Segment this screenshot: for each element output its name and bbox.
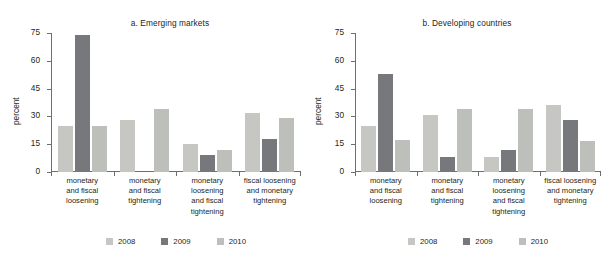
panel-a-group-1 xyxy=(114,33,177,172)
legend-label-2009: 2009 xyxy=(173,237,190,246)
panel-a-bar-1-2010 xyxy=(154,109,169,172)
panel-a-bar-2-2009 xyxy=(200,155,215,172)
figure-two-panel-bar-charts: a. Emerging markets percent 75 60 45 30 … xyxy=(0,0,609,264)
panel-b-bar-2-2010 xyxy=(518,109,533,172)
panel-b-legend: 200820092010 xyxy=(355,234,601,248)
panel-a-bar-slot-3-2008 xyxy=(244,33,261,172)
panel-a-bar-slot-3-2010 xyxy=(278,33,295,172)
legend-item-2009[interactable]: 2009 xyxy=(161,237,190,246)
panel-a-bar-0-2009 xyxy=(75,35,90,172)
panel-a-bar-3-2008 xyxy=(245,113,260,172)
panel-b-bar-slot-0-2010 xyxy=(394,33,411,172)
panel-b-bar-slot-2-2009 xyxy=(500,33,517,172)
panel-a-category-labels: monetaryand fiscalloosening monetaryand … xyxy=(51,176,301,236)
panel-a-bar-3-2009 xyxy=(262,139,277,172)
legend-swatch-2010-icon xyxy=(217,238,224,245)
panel-b-plot-area: 75 60 45 30 15 0 xyxy=(355,33,601,172)
panel-a-category-2: monetarylooseningand fiscaltightening xyxy=(176,176,239,236)
panel-b-bar-slot-2-2010 xyxy=(517,33,534,172)
panel-b-bar-groups xyxy=(355,33,601,172)
panel-b-title: b. Developing countries xyxy=(300,18,604,28)
panel-b-bar-3-2009 xyxy=(563,120,578,172)
legend-swatch-2009-icon xyxy=(463,238,470,245)
panel-b-bar-slot-0-2009 xyxy=(377,33,394,172)
panel-a-bar-groups xyxy=(51,33,301,172)
panel-b-bar-slot-3-2009 xyxy=(562,33,579,172)
panel-a-bar-slot-2-2010 xyxy=(216,33,233,172)
panel-b-bar-0-2008 xyxy=(361,126,376,172)
panel-b-bar-2-2008 xyxy=(484,157,499,172)
legend-label-2010: 2010 xyxy=(229,237,246,246)
panel-b-bar-0-2010 xyxy=(395,140,410,172)
panel-a-bar-slot-0-2009 xyxy=(74,33,91,172)
panel-a-group-0 xyxy=(51,33,114,172)
panel-b-bar-1-2008 xyxy=(423,115,438,172)
panel-a-bar-0-2010 xyxy=(92,126,107,172)
legend-label-2010: 2010 xyxy=(531,237,548,246)
panel-b-bar-2-2009 xyxy=(501,150,516,172)
panel-b-bar-slot-1-2008 xyxy=(422,33,439,172)
panel-b-bar-slot-3-2008 xyxy=(545,33,562,172)
legend-swatch-2008-icon xyxy=(106,238,113,245)
panel-b-group-2 xyxy=(478,33,540,172)
panel-b-bar-slot-1-2010 xyxy=(456,33,473,172)
panel-a-plot-area: 75 60 45 30 15 0 xyxy=(51,33,301,172)
panel-a-group-2 xyxy=(176,33,239,172)
panel-a-bar-slot-1-2010 xyxy=(153,33,170,172)
legend-item-2010[interactable]: 2010 xyxy=(519,237,548,246)
panel-a-legend: 200820092010 xyxy=(51,234,301,248)
panel-a-group-3 xyxy=(239,33,302,172)
panel-a-bar-2-2010 xyxy=(217,150,232,172)
panel-b-bar-slot-0-2008 xyxy=(360,33,377,172)
panel-a-category-3: fiscal looseningand monetarytightening xyxy=(239,176,302,236)
panel-b-category-labels: monetaryand fiscalloosening monetaryand … xyxy=(355,176,601,236)
legend-item-2009[interactable]: 2009 xyxy=(463,237,492,246)
panel-b-group-1 xyxy=(417,33,479,172)
panel-a-category-0: monetaryand fiscalloosening xyxy=(51,176,114,236)
panel-b-group-0 xyxy=(355,33,417,172)
legend-swatch-2009-icon xyxy=(161,238,168,245)
panel-b-bar-1-2009 xyxy=(440,157,455,172)
panel-a-bar-slot-0-2008 xyxy=(57,33,74,172)
legend-item-2008[interactable]: 2008 xyxy=(106,237,135,246)
panel-developing-countries: b. Developing countries percent 75 60 45… xyxy=(300,0,604,264)
legend-label-2008: 2008 xyxy=(420,237,437,246)
legend-item-2010[interactable]: 2010 xyxy=(217,237,246,246)
panel-a-bar-slot-2-2009 xyxy=(199,33,216,172)
panel-b-category-0: monetaryand fiscalloosening xyxy=(355,176,417,236)
panel-a-bar-3-2010 xyxy=(279,118,294,172)
panel-b-category-1: monetaryand fiscaltightening xyxy=(417,176,479,236)
panel-b-bar-1-2010 xyxy=(457,109,472,172)
panel-a-bar-slot-3-2009 xyxy=(261,33,278,172)
panel-a-bar-1-2008 xyxy=(120,120,135,172)
panel-a-bar-slot-1-2009 xyxy=(136,33,153,172)
panel-b-bar-slot-2-2008 xyxy=(483,33,500,172)
legend-label-2009: 2009 xyxy=(475,237,492,246)
legend-swatch-2010-icon xyxy=(519,238,526,245)
panel-a-bar-slot-1-2008 xyxy=(119,33,136,172)
panel-a-category-1: monetaryand fiscaltightening xyxy=(114,176,177,236)
panel-b-group-3 xyxy=(540,33,602,172)
panel-b-bar-3-2010 xyxy=(580,141,595,172)
panel-b-bar-slot-3-2010 xyxy=(579,33,596,172)
panel-a-y-axis-label: percent xyxy=(11,97,21,125)
legend-label-2008: 2008 xyxy=(118,237,135,246)
legend-item-2008[interactable]: 2008 xyxy=(408,237,437,246)
panel-a-bar-2-2008 xyxy=(183,144,198,172)
panel-a-title: a. Emerging markets xyxy=(0,18,304,28)
panel-b-y-axis-label: percent xyxy=(313,97,323,125)
panel-a-bar-slot-2-2008 xyxy=(182,33,199,172)
panel-emerging-markets: a. Emerging markets percent 75 60 45 30 … xyxy=(0,0,304,264)
panel-b-bar-slot-1-2009 xyxy=(439,33,456,172)
panel-a-bar-slot-0-2010 xyxy=(91,33,108,172)
legend-swatch-2008-icon xyxy=(408,238,415,245)
panel-b-category-2: monetarylooseningand fiscaltightening xyxy=(478,176,540,236)
panel-b-bar-3-2008 xyxy=(546,105,561,172)
panel-b-bar-0-2009 xyxy=(378,74,393,172)
panel-b-category-3: fiscal looseningand monetarytightening xyxy=(540,176,602,236)
panel-a-bar-0-2008 xyxy=(58,126,73,172)
